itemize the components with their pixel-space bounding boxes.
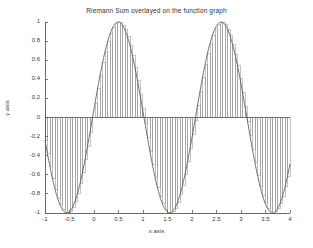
plot-svg <box>0 0 313 248</box>
figure-canvas: Riemann Sum overlayed on the function gr… <box>0 0 313 248</box>
